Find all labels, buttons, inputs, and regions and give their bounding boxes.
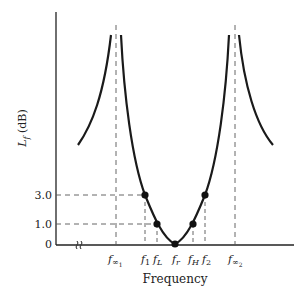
xtick-finf2: f∞2 bbox=[227, 253, 243, 268]
xtick-fr: fr bbox=[171, 253, 181, 267]
xtick-finf1: f∞1 bbox=[107, 253, 123, 268]
attenuation-diagram: 3.0 1.0 0 Lf (dB) f∞1 f1 fL fr fH f2 f∞2… bbox=[0, 0, 305, 294]
xtick-f1: f1 bbox=[140, 253, 150, 267]
xtick-f2: f2 bbox=[201, 253, 211, 267]
xtick-fH: fH bbox=[187, 253, 200, 267]
ytick-3: 3.0 bbox=[35, 189, 53, 202]
y-axis-label: Lf (dB) bbox=[16, 109, 31, 148]
point-fH bbox=[189, 220, 196, 227]
point-f2 bbox=[201, 191, 208, 198]
point-f1 bbox=[141, 191, 148, 198]
point-fr bbox=[171, 240, 178, 247]
x-axis-label: Frequency bbox=[143, 272, 208, 286]
xtick-fL: fL bbox=[152, 253, 162, 267]
ytick-1: 1.0 bbox=[35, 218, 53, 231]
chart-svg: 3.0 1.0 0 Lf (dB) f∞1 f1 fL fr fH f2 f∞2… bbox=[0, 0, 305, 294]
ytick-0: 0 bbox=[45, 238, 52, 251]
curve-passband bbox=[121, 35, 229, 244]
point-fL bbox=[153, 220, 160, 227]
curve-right-outer bbox=[239, 35, 273, 145]
curve-left-outer bbox=[78, 35, 111, 145]
